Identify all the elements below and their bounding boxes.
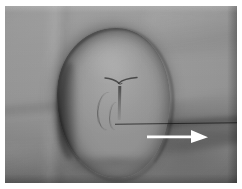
white-annotation-arrow — [145, 127, 210, 145]
clinical-photograph-plate — [5, 6, 237, 183]
figure-root — [0, 0, 242, 189]
